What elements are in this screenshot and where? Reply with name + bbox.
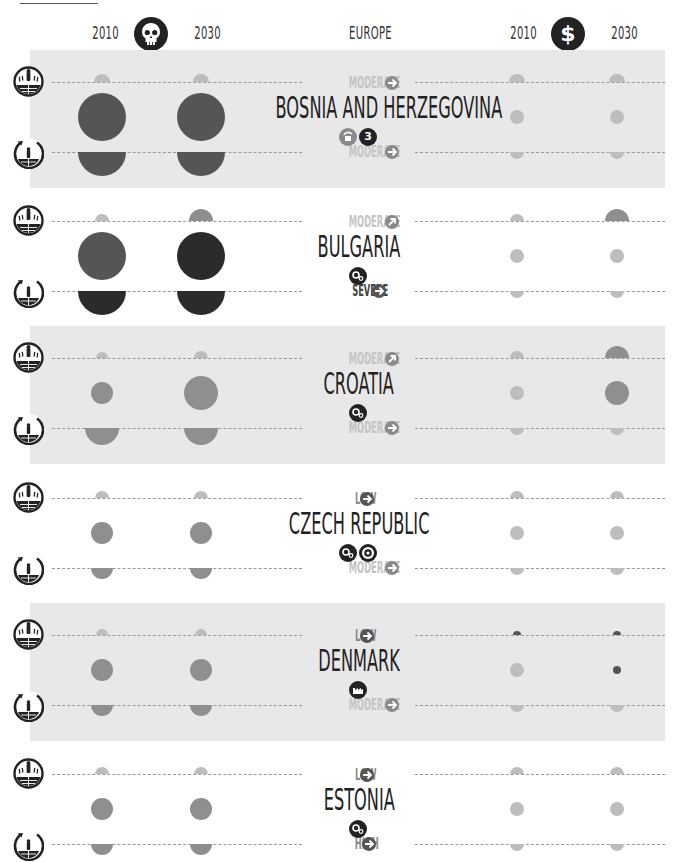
country-name-text: CROATIA bbox=[324, 366, 394, 401]
dollar-bottom-half-circle bbox=[510, 152, 524, 159]
number-3-icon: 3 bbox=[359, 128, 377, 146]
dollar-top-half-circle bbox=[609, 74, 625, 82]
factor-badges bbox=[238, 265, 478, 285]
globe-rotation-icon bbox=[13, 138, 44, 169]
country-name-text: CZECH REPUBLIC bbox=[289, 506, 430, 541]
dollar-bottom-half-circle bbox=[510, 291, 524, 298]
target-icon bbox=[359, 544, 377, 562]
skull-bottom-half-circle bbox=[190, 705, 212, 716]
arrow-right-icon bbox=[385, 76, 399, 90]
dollar-year-start: 2010 bbox=[510, 22, 537, 43]
person-globe-heat-icon bbox=[13, 342, 44, 373]
dollar-icon: $ bbox=[551, 17, 585, 51]
globe-rotation-icon bbox=[13, 691, 44, 722]
skull-top-half-circle bbox=[95, 491, 109, 498]
gears-icon bbox=[339, 544, 357, 562]
country-block: LOWHIGHESTONIA bbox=[0, 742, 679, 862]
region-title: EUROPE bbox=[349, 22, 392, 43]
arrow-right-icon bbox=[385, 421, 399, 435]
clipped-page-heading bbox=[20, 0, 98, 4]
skull-top-half-circle bbox=[95, 214, 109, 221]
skull-bottom-half-circle bbox=[91, 705, 113, 716]
top-risk-level: MODERATE bbox=[238, 212, 478, 231]
skull-icon bbox=[134, 17, 168, 51]
dollar-mid-circle bbox=[605, 381, 629, 405]
arrow-right-icon bbox=[372, 284, 386, 298]
skull-mid-circle bbox=[91, 798, 113, 820]
dollar-mid-circle bbox=[610, 110, 624, 124]
skull-bottom-half-circle bbox=[91, 568, 113, 579]
dollar-bottom-half-circle bbox=[610, 291, 624, 298]
factory-icon bbox=[349, 681, 367, 699]
country-name-text: BOSNIA AND HERZEGOVINA bbox=[276, 90, 503, 125]
skull-bottom-half-circle bbox=[190, 568, 212, 579]
skull-mid-circle bbox=[78, 93, 126, 141]
skull-bottom-half-circle bbox=[177, 152, 225, 176]
dollar-top-half-circle bbox=[510, 491, 524, 498]
country-block: LOWMODERATECZECH REPUBLIC bbox=[0, 466, 679, 604]
skull-bottom-half-circle bbox=[184, 428, 218, 445]
top-risk-level: MODERATE bbox=[238, 349, 478, 368]
arrow-up-right-icon bbox=[385, 215, 399, 229]
top-risk-level: LOW bbox=[238, 489, 478, 508]
globe-rotation-icon bbox=[13, 554, 44, 585]
globe-rotation-icon bbox=[13, 414, 44, 445]
person-globe-heat-icon bbox=[13, 205, 44, 236]
gears-icon bbox=[349, 820, 367, 838]
skull-top-half-circle bbox=[96, 629, 108, 635]
skull-top-half-circle bbox=[189, 209, 213, 221]
gears-icon bbox=[349, 267, 367, 285]
factor-badges bbox=[238, 818, 478, 838]
dollar-bottom-half-circle bbox=[610, 568, 624, 575]
dollar-top-half-circle bbox=[510, 351, 524, 358]
dollar-mid-circle bbox=[613, 666, 621, 674]
dollar-top-half-circle bbox=[613, 631, 621, 635]
dollar-bottom-half-circle bbox=[510, 705, 524, 712]
skull-top-half-circle bbox=[193, 74, 209, 82]
skull-bottom-half-circle bbox=[85, 428, 119, 445]
skull-top-half-circle bbox=[95, 767, 109, 774]
factor-badges bbox=[238, 679, 478, 699]
dollar-top-half-circle bbox=[513, 631, 521, 635]
country-name-text: BULGARIA bbox=[318, 229, 401, 264]
dollar-bottom-half-circle bbox=[610, 705, 624, 712]
dollar-top-half-circle bbox=[510, 214, 524, 221]
arrow-right-icon bbox=[362, 837, 376, 851]
top-risk-level: MODERATE bbox=[238, 73, 478, 92]
dollar-top-half-circle bbox=[509, 74, 525, 82]
country-name: DENMARK bbox=[200, 643, 518, 678]
dollar-top-half-circle bbox=[510, 767, 524, 774]
globe-rotation-icon bbox=[13, 277, 44, 308]
dollar-bottom-half-circle bbox=[510, 568, 524, 575]
country-name-text: DENMARK bbox=[318, 643, 400, 678]
arrow-right-icon bbox=[360, 768, 374, 782]
top-risk-level: LOW bbox=[238, 765, 478, 784]
skull-top-half-circle bbox=[194, 491, 208, 498]
dollar-bottom-half-circle bbox=[610, 844, 624, 851]
skull-bottom-half-circle bbox=[91, 844, 113, 855]
skull-top-half-circle bbox=[195, 629, 207, 635]
dollar-top-half-circle bbox=[610, 767, 624, 774]
factor-badges: 3 bbox=[238, 126, 478, 146]
country-name-text: ESTONIA bbox=[323, 782, 394, 817]
factor-badges bbox=[238, 542, 478, 562]
globe-rotation-icon bbox=[13, 830, 44, 861]
country-block: MODERATEMODERATECROATIA bbox=[0, 326, 679, 464]
skull-bottom-half-circle bbox=[177, 291, 225, 315]
dollar-bottom-half-circle bbox=[510, 844, 524, 851]
country-name: BOSNIA AND HERZEGOVINA bbox=[200, 90, 518, 125]
dollar-top-half-circle bbox=[605, 209, 629, 221]
dollar-bottom-half-circle bbox=[510, 428, 524, 435]
dollar-mid-circle bbox=[610, 249, 624, 263]
skull-top-half-circle bbox=[94, 74, 110, 82]
dollar-bottom-half-circle bbox=[610, 152, 624, 159]
country-name: CZECH REPUBLIC bbox=[200, 506, 518, 541]
country-name: ESTONIA bbox=[200, 782, 518, 817]
dollar-top-half-circle bbox=[610, 491, 624, 498]
country-name: BULGARIA bbox=[200, 229, 518, 264]
dollar-mid-circle bbox=[610, 526, 624, 540]
person-globe-heat-icon bbox=[13, 66, 44, 97]
arrow-right-icon bbox=[385, 561, 399, 575]
dollar-top-half-circle bbox=[605, 346, 629, 358]
top-risk-level: LOW bbox=[238, 626, 478, 645]
